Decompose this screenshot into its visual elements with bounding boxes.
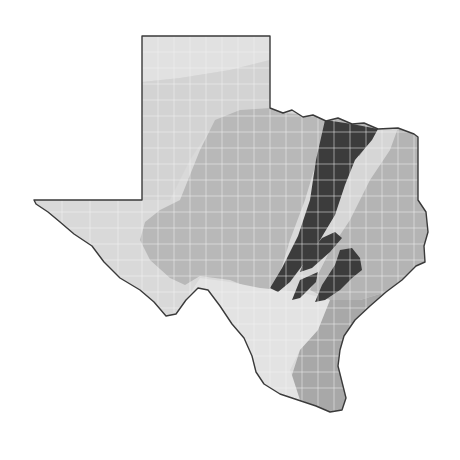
- texas-map: [0, 0, 460, 460]
